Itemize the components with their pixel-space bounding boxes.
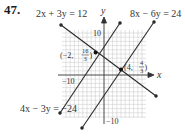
svg-text:): ) [145,63,148,72]
line-end-dot [155,95,157,97]
svg-text:16: 16 [82,47,89,54]
y-axis-label: y [100,5,106,16]
point-label-1: (−2, 16 3 ) [60,47,93,62]
equation-label-1: 2x + 3y = 12 [36,8,87,19]
linear-system-graph: 47. [0,0,185,137]
x-tick-left: −10 [62,77,75,86]
y-axis-arrow-icon [102,17,107,23]
y-tick-top: 10 [93,29,101,38]
intersection-point-2 [119,67,123,71]
svg-text:3: 3 [84,55,87,62]
equation-label-3: 4x − 3y = −24 [20,103,77,114]
y-tick-bottom: −10 [106,117,119,126]
line-end-dot [81,127,83,129]
svg-text:(4,: (4, [124,63,133,72]
problem-number: 47. [4,2,20,17]
svg-text:(−2,: (−2, [60,51,73,60]
svg-text:): ) [90,51,93,60]
line-4x-3y-neg24 [60,23,120,113]
x-axis-arrow-icon [148,73,154,78]
svg-text:3: 3 [140,67,143,74]
x-axis-label: x [156,69,162,80]
intersection-point-1 [94,51,98,55]
equation-label-2: 8x − 6y = 24 [130,8,181,19]
line-end-dot [153,21,155,23]
line-end-dot [119,22,121,24]
line-end-dot [60,24,62,26]
